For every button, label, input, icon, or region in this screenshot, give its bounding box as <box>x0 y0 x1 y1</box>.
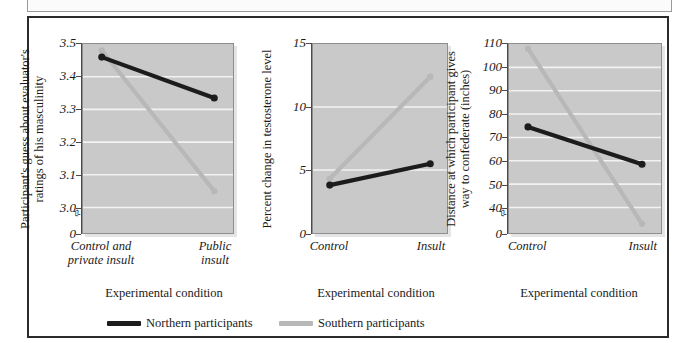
series-southern-panel3 <box>525 46 645 227</box>
y-tick-mark <box>502 67 507 68</box>
y-tick-mark <box>502 161 507 162</box>
y-tick-mark <box>502 234 507 235</box>
y-tick-mark <box>306 43 311 44</box>
y-tick-mark <box>502 137 507 138</box>
plot-area-1 <box>82 43 234 234</box>
y-axis-title-1: Participant's guess about evaluator's ra… <box>18 39 46 239</box>
x-axis-title-3: Experimental condition <box>459 286 675 300</box>
y-tick-mark <box>76 234 81 235</box>
x-tick-label: Control and private insult <box>46 240 156 267</box>
chart-panel-3: 0405060708090100110≈Distance at which pa… <box>449 18 675 336</box>
y-tick-mark <box>306 170 311 171</box>
y-tick-mark <box>502 43 507 44</box>
y-axis-title-3: Distance at which participant gives way … <box>444 39 472 239</box>
y-tick-label: 60 <box>468 154 502 167</box>
plot-area-2 <box>312 43 448 234</box>
y-tick-label: 50 <box>468 178 502 191</box>
y-axis-line-2 <box>311 43 312 234</box>
y-axis-title-2: Percent change in testosterone level <box>260 39 274 239</box>
y-tick-label: 90 <box>468 83 502 96</box>
y-tick-label: 3.4 <box>42 69 76 82</box>
legend-swatch-southern <box>279 321 313 326</box>
legend-label-southern: Southern participants <box>318 316 425 330</box>
series-layer-3 <box>509 44 661 233</box>
y-tick-label: 80 <box>468 107 502 120</box>
y-tick-label: 15 <box>272 36 306 49</box>
y-tick-mark <box>76 142 81 143</box>
panel-container: 03.03.13.23.33.43.5≈Participant's guess … <box>29 18 667 336</box>
y-tick-mark <box>306 234 311 235</box>
legend-label-northern: Northern participants <box>146 316 253 330</box>
y-tick-label: 3.1 <box>42 168 76 181</box>
legend-item-southern: Southern participants <box>279 316 425 330</box>
y-tick-mark <box>76 109 81 110</box>
series-layer-1 <box>83 44 233 233</box>
y-tick-label: 3.3 <box>42 102 76 115</box>
y-tick-mark <box>502 114 507 115</box>
series-southern-panel1 <box>99 47 218 194</box>
y-tick-mark <box>306 107 311 108</box>
y-tick-mark <box>76 175 81 176</box>
y-tick-label: 3.5 <box>42 36 76 49</box>
y-tick-label: 0 <box>272 227 306 240</box>
x-tick-label: Insult <box>588 240 675 254</box>
y-tick-mark <box>76 43 81 44</box>
x-tick-label: Control <box>472 240 582 254</box>
chart-legend: Northern participants Southern participa… <box>29 314 667 336</box>
y-tick-label: 100 <box>468 60 502 73</box>
figure-border-box: 03.03.13.23.33.43.5≈Participant's guess … <box>27 16 669 338</box>
y-tick-label: 10 <box>272 100 306 113</box>
top-cut-off-panel <box>27 0 672 12</box>
series-northern-panel1 <box>98 54 218 102</box>
x-axis-title-1: Experimental condition <box>49 286 279 300</box>
series-northern-panel3 <box>524 123 645 167</box>
y-tick-label: 70 <box>468 130 502 143</box>
plot-area-3 <box>508 43 662 234</box>
y-tick-label: 3.2 <box>42 135 76 148</box>
y-tick-mark <box>76 76 81 77</box>
figure-root: 03.03.13.23.33.43.5≈Participant's guess … <box>0 0 675 343</box>
y-tick-mark <box>502 185 507 186</box>
chart-panel-1: 03.03.13.23.33.43.5≈Participant's guess … <box>29 18 274 336</box>
x-tick-label: Control <box>274 240 384 254</box>
series-layer-2 <box>313 44 447 233</box>
legend-swatch-northern <box>107 321 141 326</box>
legend-item-northern: Northern participants <box>107 316 253 330</box>
y-tick-label: 0 <box>468 227 502 240</box>
y-tick-mark <box>502 90 507 91</box>
y-tick-label: 110 <box>468 36 502 49</box>
y-tick-label: 5 <box>272 163 306 176</box>
